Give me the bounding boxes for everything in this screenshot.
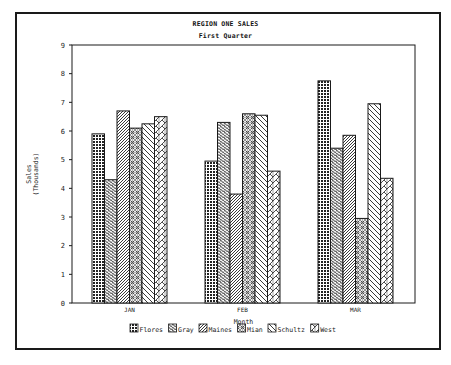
bar-chart: 0123456789Sales(Thousands)JANFEBMARMonth… bbox=[0, 0, 451, 365]
y-tick-label: 8 bbox=[61, 70, 65, 78]
y-tick-label: 3 bbox=[61, 214, 65, 222]
bar-flores-feb bbox=[205, 161, 218, 303]
bar-gray-jan bbox=[105, 180, 118, 303]
legend-swatch-gray bbox=[169, 324, 177, 332]
legend-swatch-mian bbox=[238, 324, 246, 332]
legend-swatch-schultz bbox=[268, 324, 276, 332]
bar-west-mar bbox=[381, 178, 394, 303]
bar-maines-feb bbox=[230, 194, 243, 303]
bar-gray-feb bbox=[218, 122, 231, 303]
y-tick-label: 9 bbox=[61, 42, 65, 50]
bar-flores-jan bbox=[92, 134, 105, 303]
bars bbox=[92, 81, 393, 303]
x-tick-label: FEB bbox=[237, 306, 248, 313]
y-tick-label: 4 bbox=[61, 185, 65, 193]
legend-swatch-maines bbox=[199, 324, 207, 332]
y-tick-label: 5 bbox=[61, 156, 65, 164]
legend-swatch-flores bbox=[130, 324, 138, 332]
legend-label-mian: Mian bbox=[247, 326, 263, 334]
y-tick-label: 7 bbox=[61, 99, 65, 107]
bar-gray-mar bbox=[331, 148, 344, 303]
legend-label-west: West bbox=[320, 326, 336, 334]
legend-swatch-west bbox=[311, 324, 319, 332]
bar-maines-jan bbox=[117, 111, 130, 303]
y-tick-label: 1 bbox=[61, 271, 65, 279]
bar-west-feb bbox=[268, 171, 281, 303]
bar-maines-mar bbox=[343, 135, 356, 303]
x-tick-label: MAR bbox=[350, 306, 361, 313]
y-axis-sublabel: (Thousands) bbox=[32, 152, 40, 195]
bar-mian-mar bbox=[356, 218, 369, 303]
bar-mian-jan bbox=[130, 128, 143, 303]
bar-schultz-mar bbox=[368, 104, 381, 303]
bar-flores-mar bbox=[318, 81, 331, 303]
legend-label-gray: Gray bbox=[178, 326, 194, 334]
x-tick-label: JAN bbox=[124, 306, 135, 313]
legend-label-maines: Maines bbox=[209, 326, 233, 334]
bar-schultz-jan bbox=[142, 124, 155, 303]
bar-schultz-feb bbox=[255, 115, 268, 303]
y-tick-label: 0 bbox=[61, 300, 65, 308]
legend-label-schultz: Schultz bbox=[278, 326, 305, 334]
y-tick-label: 6 bbox=[61, 128, 65, 136]
bar-mian-feb bbox=[243, 114, 256, 303]
y-tick-label: 2 bbox=[61, 242, 65, 250]
bar-west-jan bbox=[155, 117, 168, 303]
legend-label-flores: Flores bbox=[140, 326, 164, 334]
